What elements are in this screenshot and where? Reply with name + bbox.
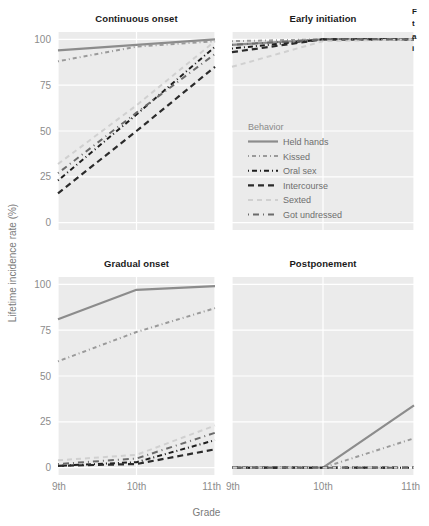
legend-label-held-hands: Held hands bbox=[283, 137, 329, 147]
ytick-label-row0-2: 50 bbox=[40, 126, 52, 137]
clipped-caption-text: F t a i bbox=[412, 6, 429, 56]
facet-postponement: 9th10th11th bbox=[226, 277, 420, 492]
clipped-caption-line-2: a bbox=[412, 31, 429, 43]
legend-label-intercourse: Intercourse bbox=[283, 181, 328, 191]
legend-title: Behavior bbox=[248, 122, 284, 132]
ytick-label-row0-0: 0 bbox=[45, 217, 51, 228]
facet-title-postponement: Postponement bbox=[232, 258, 414, 269]
xtick-label-gradual-onset-2: 11th bbox=[202, 481, 221, 492]
xtick-label-gradual-onset-1: 10th bbox=[127, 481, 146, 492]
ytick-label-row2-1: 25 bbox=[40, 416, 52, 427]
ytick-label-row2-0: 0 bbox=[45, 462, 51, 473]
facet-continuous-onset bbox=[58, 32, 215, 230]
ytick-label-row2-4: 100 bbox=[34, 279, 51, 290]
clipped-caption-line-0: F bbox=[412, 6, 429, 18]
xtick-label-postponement-2: 11th bbox=[401, 481, 420, 492]
facet-title-continuous-onset: Continuous onset bbox=[58, 13, 215, 24]
ytick-label-row2-2: 50 bbox=[40, 371, 52, 382]
x-axis-title: Grade bbox=[193, 507, 221, 518]
ytick-label-row0-1: 25 bbox=[40, 171, 52, 182]
ytick-label-row0-3: 75 bbox=[40, 80, 52, 91]
facet-title-early-initiation: Early initiation bbox=[232, 13, 414, 24]
y-axis-title: Lifetime incidence rate (%) bbox=[7, 204, 18, 322]
legend-label-got-undressed: Got undressed bbox=[283, 210, 342, 220]
ytick-label-row0-4: 100 bbox=[34, 34, 51, 45]
ytick-label-row2-3: 75 bbox=[40, 325, 52, 336]
xtick-label-postponement-0: 9th bbox=[226, 481, 240, 492]
xtick-label-gradual-onset-0: 9th bbox=[52, 481, 66, 492]
legend-label-sexted: Sexted bbox=[283, 195, 311, 205]
clipped-caption-line-3: i bbox=[412, 43, 429, 55]
clipped-caption-line-1: t bbox=[412, 18, 429, 30]
facet-gradual-onset: 9th10th11th bbox=[52, 277, 221, 492]
legend-label-kissed: Kissed bbox=[283, 152, 310, 162]
legend-label-oral-sex: Oral sex bbox=[283, 166, 317, 176]
facet-title-gradual-onset: Gradual onset bbox=[58, 258, 215, 269]
xtick-label-postponement-1: 10th bbox=[313, 481, 332, 492]
